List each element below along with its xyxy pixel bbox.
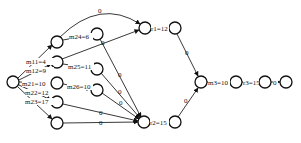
label-zero-arc: 0 xyxy=(98,7,102,15)
label-m11: m11=4 xyxy=(26,58,46,66)
node-r3-end xyxy=(259,76,271,88)
node-m3-end xyxy=(230,76,242,88)
edge-r2-to-m3 xyxy=(178,88,198,117)
label-zero-r1-m3: 0 xyxy=(185,49,189,57)
label-m25: m25=11 xyxy=(68,63,92,71)
node-terminal xyxy=(280,76,292,88)
label-r3: r3=15 xyxy=(243,79,260,87)
node-hub xyxy=(138,116,150,128)
node-m3-start xyxy=(195,76,207,88)
node-source xyxy=(7,76,19,88)
edges-right xyxy=(150,28,280,122)
label-zero-e: 0 xyxy=(99,119,103,127)
node-a xyxy=(51,36,63,48)
nodes xyxy=(7,22,292,129)
label-zero-b-r1: 0 xyxy=(101,39,105,47)
node-e xyxy=(51,117,63,129)
label-zero-n24: 0 xyxy=(118,71,122,79)
label-r2: r2=15 xyxy=(150,119,167,127)
node-r2-end xyxy=(169,116,181,128)
label-m3: m3=10 xyxy=(208,79,228,87)
node-r1-end xyxy=(169,22,181,34)
label-m22: m22=12 xyxy=(25,89,49,97)
label-zero-d: 0 xyxy=(99,109,103,117)
label-m23: m23=17 xyxy=(25,98,49,106)
label-zero-n25: 0 xyxy=(118,88,122,96)
label-zero-r2-m3: 0 xyxy=(184,97,188,105)
label-m24: m24=6 xyxy=(69,33,89,41)
process-graph-diagram: m11=4 m12=9 m21=10 m22=12 m23=17 m24=6 m… xyxy=(0,0,301,143)
label-m12: m12=9 xyxy=(26,67,46,75)
label-m21: m21=10 xyxy=(22,80,46,88)
node-r1-start xyxy=(139,22,151,34)
label-r1: r1=12 xyxy=(151,25,168,33)
node-c xyxy=(51,77,63,89)
label-zero-n26: 0 xyxy=(119,99,123,107)
label-m26: m26=10 xyxy=(67,83,91,91)
label-zero-final: 0 xyxy=(273,79,277,87)
